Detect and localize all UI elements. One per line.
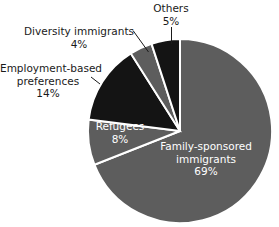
pie-label-family-sponsored-immigrants-value: 69% xyxy=(150,165,262,178)
pie-label-employment-based-preferences-text-line1: Employment-based xyxy=(0,62,102,74)
pie-label-family-sponsored-immigrants: Family-sponsored immigrants 69% xyxy=(150,140,262,178)
pie-chart: Others 5% Diversity immigrants 4% Employ… xyxy=(0,0,279,227)
pie-label-employment-based-preferences-text-line2: preferences xyxy=(0,75,96,88)
pie-label-diversity-immigrants-text: Diversity immigrants xyxy=(24,25,134,37)
pie-label-others-text: Others xyxy=(153,2,188,14)
pie-label-diversity-immigrants: Diversity immigrants 4% xyxy=(24,25,134,50)
pie-label-employment-based-preferences-value: 14% xyxy=(0,87,96,100)
pie-label-others: Others 5% xyxy=(132,2,210,27)
pie-label-diversity-immigrants-value: 4% xyxy=(24,38,134,51)
pie-label-employment-based-preferences: Employment-based preferences 14% xyxy=(0,62,96,100)
pie-label-refugees-text: Refugees xyxy=(96,120,145,132)
pie-label-refugees-value: 8% xyxy=(88,133,152,146)
pie-label-refugees: Refugees 8% xyxy=(88,120,152,145)
pie-label-family-sponsored-immigrants-text-line1: Family-sponsored xyxy=(160,140,252,152)
pie-label-others-value: 5% xyxy=(132,15,210,28)
pie-label-family-sponsored-immigrants-text-line2: immigrants xyxy=(150,153,262,166)
